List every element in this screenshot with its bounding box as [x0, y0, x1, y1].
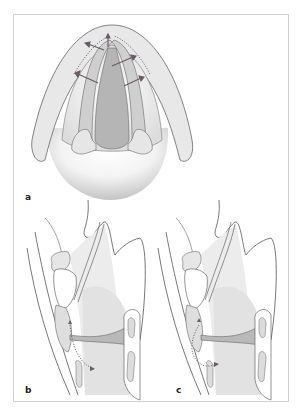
panel-c-label: c — [176, 385, 181, 395]
panel-b-label: b — [25, 385, 31, 395]
panel-b-larynx-sagittal-illustration — [0, 0, 301, 413]
